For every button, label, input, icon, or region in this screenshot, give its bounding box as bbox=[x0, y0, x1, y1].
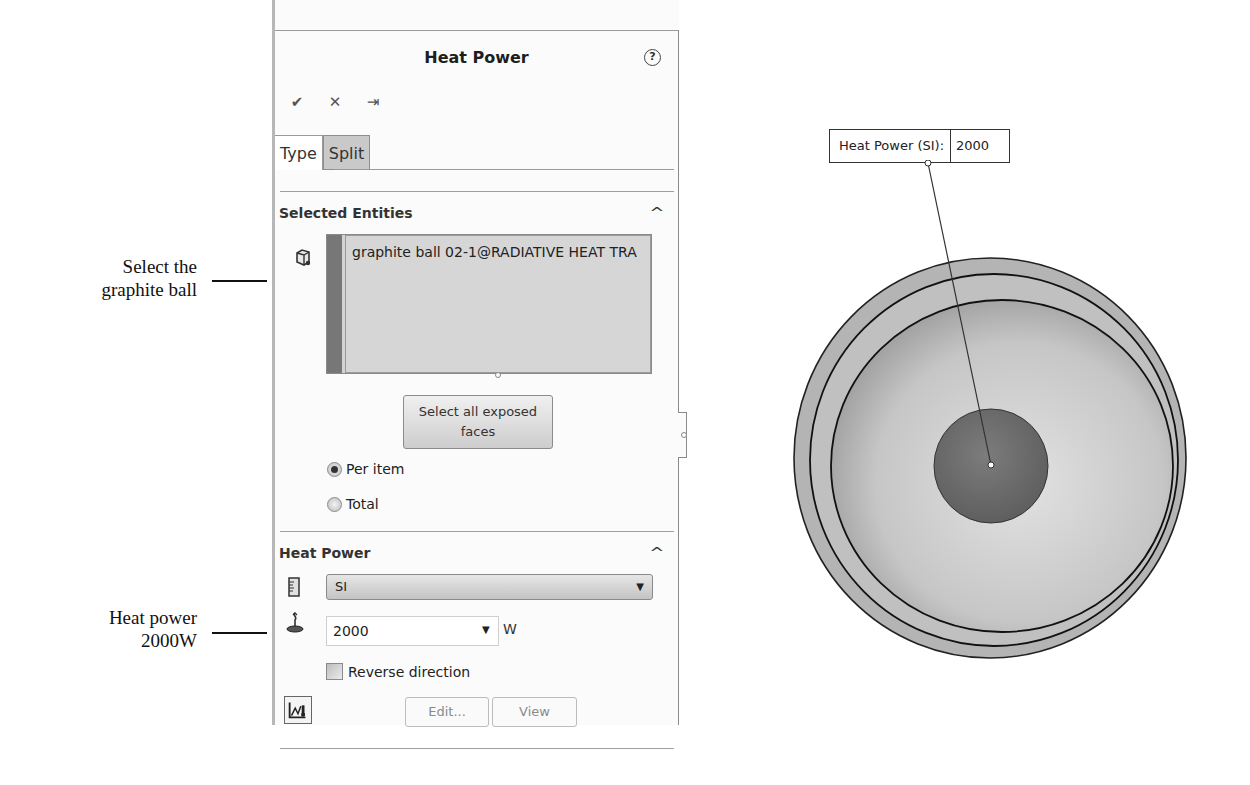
annotation-line-1: Heat power bbox=[60, 606, 197, 629]
radio-button-checked[interactable] bbox=[327, 462, 342, 477]
annotation-line-2: 2000W bbox=[60, 629, 197, 652]
tag-value: 2000 bbox=[951, 130, 1009, 162]
panel-actions: ✔ ✕ ⇥ bbox=[287, 93, 383, 111]
annotation-line-2: graphite ball bbox=[60, 278, 197, 301]
tag-label: Heat Power (SI): bbox=[830, 130, 951, 162]
collapse-chevron-icon[interactable]: ^ bbox=[649, 545, 664, 561]
annotation-leader bbox=[212, 280, 267, 282]
button-label-line-1: Select all exposed bbox=[404, 402, 552, 422]
section-divider bbox=[280, 748, 674, 749]
listbox-resize-handle[interactable] bbox=[495, 372, 501, 378]
panel-title: Heat Power bbox=[275, 48, 678, 67]
radio-label: Per item bbox=[346, 461, 404, 477]
panel-resize-grip[interactable] bbox=[681, 432, 687, 438]
unit-system-select[interactable]: SI ▼ bbox=[326, 574, 653, 600]
radio-label: Total bbox=[346, 496, 379, 512]
solid-body-icon bbox=[293, 247, 313, 267]
section-title-heat-power: Heat Power bbox=[279, 545, 370, 561]
collapse-chevron-icon[interactable]: ^ bbox=[649, 205, 664, 221]
select-value: SI bbox=[335, 579, 347, 594]
annotation-line-1: Select the bbox=[60, 255, 197, 278]
tab-underline bbox=[334, 169, 674, 170]
section-title-selected-entities: Selected Entities bbox=[279, 205, 413, 221]
radio-button[interactable] bbox=[327, 497, 342, 512]
graph-curve-icon bbox=[285, 697, 311, 723]
selection-color-strip bbox=[327, 235, 342, 373]
ruler-units-icon bbox=[287, 577, 301, 597]
dropdown-arrow-icon[interactable]: ▼ bbox=[482, 624, 490, 635]
radio-total[interactable]: Total bbox=[327, 496, 379, 512]
tab-type[interactable]: Type bbox=[275, 135, 323, 170]
checkbox[interactable] bbox=[326, 663, 343, 680]
help-icon[interactable]: ? bbox=[644, 49, 661, 66]
panel-top-border bbox=[275, 30, 678, 31]
radio-per-item[interactable]: Per item bbox=[327, 461, 404, 477]
selected-entities-list[interactable]: graphite ball 02-1@RADIATIVE HEAT TRA bbox=[345, 235, 651, 373]
checkbox-label: Reverse direction bbox=[348, 664, 470, 680]
pushpin-icon[interactable]: ⇥ bbox=[363, 93, 383, 111]
annotation-select-ball: Select the graphite ball bbox=[60, 255, 197, 301]
annotation-heat-power: Heat power 2000W bbox=[60, 606, 197, 652]
leader-anchor-top bbox=[925, 160, 931, 166]
heat-power-callout-tag[interactable]: Heat Power (SI): 2000 bbox=[829, 129, 1010, 163]
select-all-exposed-faces-button[interactable]: Select all exposed faces bbox=[403, 395, 553, 449]
list-item[interactable]: graphite ball 02-1@RADIATIVE HEAT TRA bbox=[346, 236, 650, 260]
heat-power-value-input[interactable]: 2000 bbox=[326, 616, 499, 646]
heat-power-icon bbox=[285, 611, 305, 633]
section-divider bbox=[280, 191, 674, 192]
reverse-direction-checkbox[interactable]: Reverse direction bbox=[326, 663, 470, 680]
tab-split[interactable]: Split bbox=[323, 135, 370, 170]
section-divider bbox=[280, 531, 674, 532]
button-label-line-2: faces bbox=[404, 422, 552, 442]
tab-bar: Type Split bbox=[275, 135, 370, 170]
heat-power-unit: W bbox=[503, 621, 517, 637]
time-curve-button[interactable] bbox=[284, 696, 312, 724]
leader-anchor-point bbox=[988, 462, 994, 468]
panel-right-border bbox=[678, 30, 679, 725]
edit-button[interactable]: Edit... bbox=[405, 697, 489, 727]
selected-entities-listbox[interactable]: graphite ball 02-1@RADIATIVE HEAT TRA bbox=[326, 234, 652, 374]
ok-check-icon[interactable]: ✔ bbox=[287, 93, 307, 111]
annotation-leader bbox=[212, 632, 267, 634]
cancel-close-icon[interactable]: ✕ bbox=[325, 93, 345, 111]
dropdown-arrow-icon: ▼ bbox=[636, 575, 644, 599]
view-button[interactable]: View bbox=[492, 697, 577, 727]
graphite-ball-model-view[interactable] bbox=[790, 160, 1210, 680]
